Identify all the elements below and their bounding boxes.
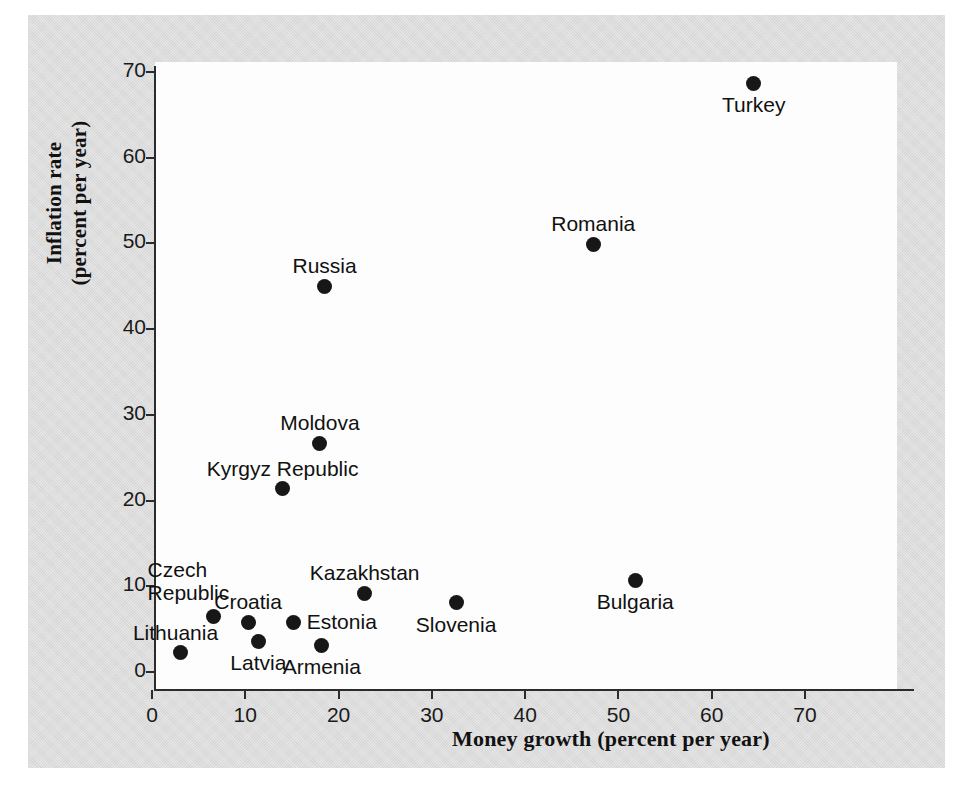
y-tick-label: 30 bbox=[104, 401, 146, 425]
data-point-label: Romania bbox=[551, 212, 635, 236]
data-point-label: Estonia bbox=[307, 610, 377, 634]
data-point-marker[interactable] bbox=[746, 76, 761, 91]
data-point-label: Lithuania bbox=[133, 621, 218, 645]
x-axis-line bbox=[154, 689, 914, 691]
data-point-label: Kazakhstan bbox=[310, 561, 420, 585]
data-point-marker[interactable] bbox=[251, 634, 266, 649]
y-axis-title-line2: (percent per year) bbox=[67, 73, 92, 333]
data-point-marker[interactable] bbox=[628, 573, 643, 588]
y-tick-mark bbox=[146, 414, 155, 416]
data-point-label: Moldova bbox=[280, 411, 359, 435]
data-point-label: Croatia bbox=[214, 590, 282, 614]
y-tick-mark bbox=[146, 328, 155, 330]
y-tick-mark bbox=[146, 242, 155, 244]
x-tick-label: 10 bbox=[215, 703, 275, 727]
y-tick-mark bbox=[146, 671, 155, 673]
y-tick-mark bbox=[146, 71, 155, 73]
y-tick-label: 70 bbox=[104, 58, 146, 82]
x-tick-label: 0 bbox=[122, 703, 182, 727]
y-tick-mark bbox=[146, 500, 155, 502]
x-tick-mark bbox=[151, 690, 153, 699]
x-tick-label: 40 bbox=[495, 703, 555, 727]
data-point-label: Bulgaria bbox=[597, 590, 674, 614]
x-tick-mark bbox=[617, 690, 619, 699]
y-tick-label: 0 bbox=[104, 658, 146, 682]
x-axis-title: Money growth (percent per year) bbox=[452, 726, 770, 752]
y-axis-title: Inflation rate (percent per year) bbox=[42, 73, 92, 333]
data-point-marker[interactable] bbox=[449, 595, 464, 610]
data-point-label: Latvia bbox=[230, 651, 286, 675]
y-tick-label: 10 bbox=[104, 572, 146, 596]
y-tick-label: 20 bbox=[104, 487, 146, 511]
data-point-marker[interactable] bbox=[286, 615, 301, 630]
x-tick-label: 60 bbox=[682, 703, 742, 727]
y-axis-title-line1: Inflation rate bbox=[42, 73, 67, 333]
data-point-label-line1: Czech bbox=[148, 558, 230, 581]
data-point-label: Russia bbox=[292, 254, 356, 278]
data-point-label: Slovenia bbox=[416, 613, 497, 637]
data-point-label: Armenia bbox=[283, 655, 361, 679]
data-point-label: Kyrgyz Republic bbox=[207, 457, 359, 481]
data-point-marker[interactable] bbox=[312, 436, 327, 451]
y-tick-label: 40 bbox=[104, 315, 146, 339]
x-tick-mark bbox=[804, 690, 806, 699]
x-tick-mark bbox=[524, 690, 526, 699]
x-tick-label: 30 bbox=[402, 703, 462, 727]
x-tick-label: 50 bbox=[588, 703, 648, 727]
x-tick-mark bbox=[244, 690, 246, 699]
scatter-plot-figure: 010203040506070 010203040506070 Inflatio… bbox=[0, 0, 970, 796]
y-tick-label: 50 bbox=[104, 229, 146, 253]
data-point-marker[interactable] bbox=[241, 615, 256, 630]
y-tick-label: 60 bbox=[104, 144, 146, 168]
data-point-marker[interactable] bbox=[357, 586, 372, 601]
x-tick-mark bbox=[338, 690, 340, 699]
x-tick-mark bbox=[431, 690, 433, 699]
data-point-label: Turkey bbox=[722, 93, 785, 117]
data-point-marker[interactable] bbox=[317, 279, 332, 294]
y-tick-mark bbox=[146, 157, 155, 159]
x-tick-label: 70 bbox=[775, 703, 835, 727]
data-point-marker[interactable] bbox=[586, 237, 601, 252]
x-tick-label: 20 bbox=[309, 703, 369, 727]
x-tick-mark bbox=[711, 690, 713, 699]
